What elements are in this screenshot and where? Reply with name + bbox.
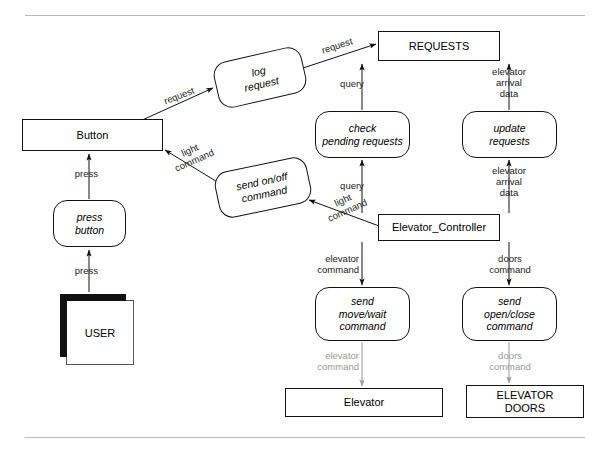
edge-label-doors-command-controller: doors command [478,253,542,275]
diagram-canvas: REQUESTS Button log request send on/off … [0,0,609,450]
edge-label-doors-command-muted: doors command [478,350,542,372]
store-elevator-label: Elevator [344,396,384,409]
edge-label-press-from-user: press [54,265,98,276]
actor-user[interactable]: USER [66,300,134,365]
store-button[interactable]: Button [22,119,163,151]
edge-label-arrival-update-to-store: elevator arrival data [478,66,540,99]
store-button-label: Button [77,129,109,142]
edge-label-arrival-controller-to-update: elevator arrival data [478,165,540,198]
store-elevator[interactable]: Elevator [285,388,443,417]
process-log-request-label: log request [240,61,280,93]
process-check-pending-requests-label: check pending requests [322,122,403,147]
process-send-move-wait-command-label: send move/wait command [339,295,386,333]
actor-user-label: USER [85,327,116,339]
store-elevator-controller[interactable]: Elevator_Controller [378,214,500,241]
actor-user-top-slab [60,294,126,301]
process-send-move-wait-command[interactable]: send move/wait command [315,287,410,341]
process-press-button[interactable]: press button [53,200,126,247]
edge-label-elevator-command-muted: elevator command [295,350,359,372]
process-press-button-label: press button [75,211,104,236]
process-update-requests-label: update requests [489,122,529,147]
store-elevator-doors-label: ELEVATOR DOORS [497,389,554,415]
store-requests[interactable]: REQUESTS [378,31,500,61]
process-check-pending-requests[interactable]: check pending requests [315,111,410,158]
store-requests-label: REQUESTS [409,40,470,53]
edge-label-query-check-to-store: query [328,78,376,89]
store-elevator-controller-label: Elevator_Controller [392,221,486,234]
process-send-on-off-command-label: send on/off command [235,170,291,205]
process-send-open-close-command[interactable]: send open/close command [462,287,557,341]
edge-label-elevator-command-controller: elevator command [295,253,359,275]
process-send-open-close-command-label: send open/close command [484,295,535,333]
store-elevator-doors[interactable]: ELEVATOR DOORS [466,385,584,418]
actor-user-side-slab [60,294,67,357]
edge-label-press-to-button: press [54,168,98,179]
process-update-requests[interactable]: update requests [462,111,557,158]
